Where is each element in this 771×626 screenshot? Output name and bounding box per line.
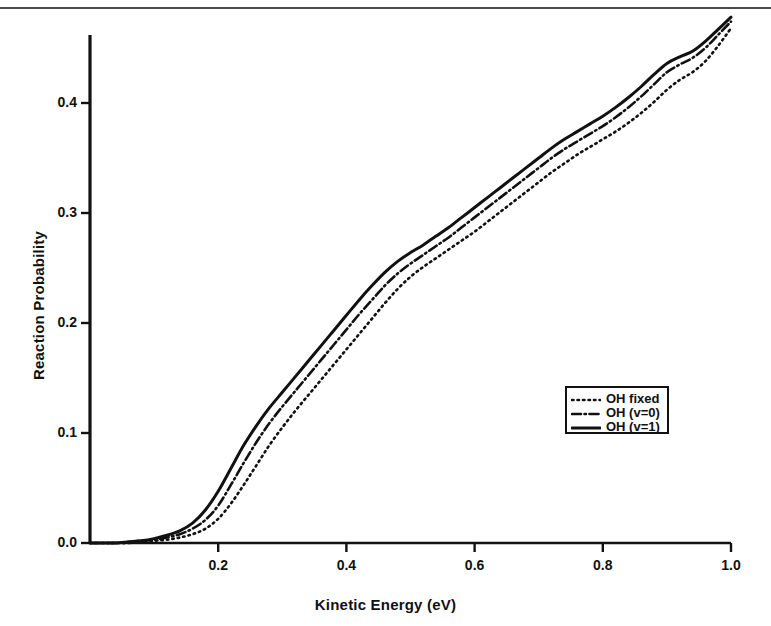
chart-legend: OH fixedOH (v=0)OH (v=1) <box>565 386 669 434</box>
y-tick-label: 0.0 <box>37 534 77 550</box>
y-tick-label: 0.3 <box>37 204 77 220</box>
axis-lines <box>90 35 731 543</box>
legend-item: OH (v=0) <box>571 405 663 419</box>
legend-item: OH (v=1) <box>571 419 663 433</box>
x-tick-label: 0.4 <box>321 557 371 573</box>
legend-item: OH fixed <box>571 391 663 405</box>
y-tick-label: 0.4 <box>37 94 77 110</box>
legend-swatch-solid <box>571 420 601 432</box>
data-series-group <box>90 17 731 543</box>
tick-marks <box>81 103 731 552</box>
series-line-oh-fixed <box>90 28 731 543</box>
series-line-oh-v-0 <box>90 22 731 543</box>
y-axis-title: Reaction Probability <box>30 231 47 380</box>
legend-swatch-dotted <box>571 392 601 404</box>
series-line-oh-v-1 <box>90 17 731 543</box>
x-tick-label: 0.8 <box>578 557 628 573</box>
x-tick-label: 0.2 <box>193 557 243 573</box>
x-tick-label: 0.6 <box>450 557 500 573</box>
x-tick-label: 1.0 <box>706 557 756 573</box>
y-tick-label: 0.2 <box>37 314 77 330</box>
y-tick-label: 0.1 <box>37 424 77 440</box>
x-axis-title: Kinetic Energy (eV) <box>0 596 771 613</box>
chart-canvas <box>0 0 771 626</box>
figure-panel: Reaction Probability Kinetic Energy (eV)… <box>0 0 771 626</box>
legend-label: OH (v=1) <box>606 420 660 433</box>
legend-swatch-dashdot <box>571 406 601 418</box>
legend-label: OH (v=0) <box>606 406 660 419</box>
legend-label: OH fixed <box>606 392 659 405</box>
